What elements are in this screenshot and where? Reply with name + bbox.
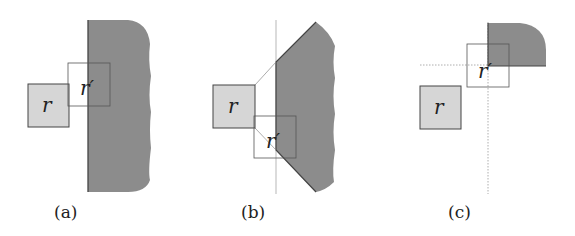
obstacle-region (276, 22, 335, 192)
label-r: r (42, 93, 53, 117)
label-r: r (434, 95, 445, 119)
panel-c: r′ r (c) (420, 22, 546, 222)
caption-c: (c) (448, 202, 471, 222)
label-r-prime: r′ (80, 76, 95, 100)
projection-line (255, 62, 276, 85)
label-r: r (228, 94, 239, 118)
label-r-prime: r′ (478, 59, 493, 83)
panel-b: r r′ (b) (213, 20, 335, 222)
caption-a: (a) (54, 202, 77, 222)
label-r-prime: r′ (266, 129, 281, 153)
panel-a: r r′ (a) (28, 20, 151, 222)
diagram-canvas: r r′ (a) r r′ (b) r′ r (c) (0, 0, 575, 236)
caption-b: (b) (241, 202, 265, 222)
obstacle-region (488, 23, 546, 66)
